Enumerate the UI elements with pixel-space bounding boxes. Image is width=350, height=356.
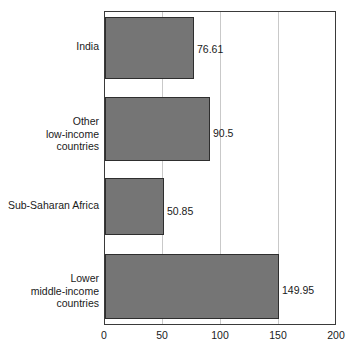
bar-chart: India Other low-income countries Sub-Sah…	[0, 0, 350, 356]
value-label-0: 76.61	[197, 44, 223, 55]
category-label-0: India	[0, 40, 99, 53]
xtick-label-1: 50	[142, 330, 182, 341]
xtick-label-2: 100	[200, 330, 240, 341]
category-label-3: Lower middle-income countries	[0, 272, 99, 310]
xtick-label-0: 0	[84, 330, 124, 341]
category-label-1: Other low-income countries	[0, 115, 99, 153]
value-label-3: 149.95	[282, 285, 314, 296]
bar-1	[105, 97, 210, 161]
value-label-2: 50.85	[167, 206, 193, 217]
bar-2	[105, 178, 164, 235]
value-label-1: 90.5	[213, 128, 233, 139]
xtick-label-3: 150	[258, 330, 298, 341]
xtick-label-4: 200	[316, 330, 350, 341]
plot-area	[104, 11, 336, 325]
bar-0	[105, 17, 194, 79]
category-label-2: Sub-Saharan Africa	[0, 199, 99, 212]
bar-3	[105, 254, 279, 319]
